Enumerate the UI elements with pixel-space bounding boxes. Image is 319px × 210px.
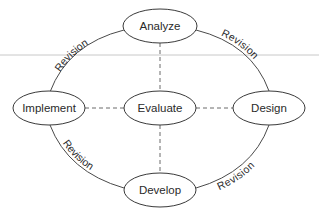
node-evaluate-label: Evaluate [138, 102, 183, 114]
diagram-canvas: Revision Revision Revision Revision Anal… [0, 0, 319, 210]
node-implement: Implement [13, 91, 85, 125]
revision-label-bottom-right: Revision [215, 159, 257, 192]
revision-cycle-diagram: Revision Revision Revision Revision Anal… [0, 0, 319, 210]
node-analyze: Analyze [123, 9, 197, 43]
node-develop: Develop [124, 173, 196, 207]
node-develop-label: Develop [139, 184, 181, 196]
revision-label-bottom-left: Revision [61, 137, 96, 172]
node-analyze-label: Analyze [140, 20, 181, 32]
node-evaluate: Evaluate [124, 91, 196, 125]
node-design: Design [233, 91, 305, 125]
revision-label-top-right: Revision [220, 26, 262, 61]
node-design-label: Design [251, 102, 287, 114]
node-implement-label: Implement [22, 102, 76, 114]
